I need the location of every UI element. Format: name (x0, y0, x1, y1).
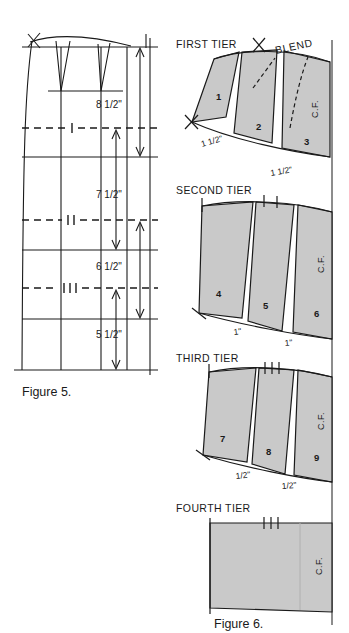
tier3-spread-label-1: 1/2" (235, 469, 251, 481)
tier3-piece-number-9: 9 (314, 452, 319, 463)
tier2-piece-6 (293, 205, 332, 339)
tier3-center-front-label: C.F. (316, 412, 326, 430)
tier-label-first: FIRST TIER (176, 38, 237, 50)
dart-2 (98, 43, 110, 91)
figure-6-caption: Figure 6. (214, 617, 263, 631)
tier4-center-front-label: C.F. (314, 557, 324, 575)
tier-first: FIRST TIER BLEND (176, 36, 330, 178)
tier-fourth: FOURTH TIER C.F. (176, 502, 332, 614)
tier1-piece-number-2: 2 (256, 121, 261, 132)
tier2-spread-label-2: 1" (284, 337, 293, 348)
tier-second: SECOND TIER 4 5 6 C.F. 1" 1" (176, 184, 332, 348)
tier1-spread-label-2: 1 1/2" (270, 164, 293, 178)
waist-tick-left (28, 34, 40, 48)
tier2-spread-label-1: 1" (233, 326, 242, 337)
tier3-piece-7 (203, 368, 256, 462)
figure-5: 8 1/2" 7 1/2" 6 1/2" 5 1/2" Figure 5. (0, 0, 175, 633)
tier1-piece-1 (192, 52, 239, 122)
dimension-label-6-5: 6 1/2" (96, 261, 122, 272)
dimension-label-8-5: 8 1/2" (96, 99, 122, 110)
skirt-left-edge (22, 41, 32, 370)
tier2-center-front-label: C.F. (316, 255, 326, 273)
dimension-label-5-5: 5 1/2" (96, 329, 122, 340)
tier3-piece-8 (252, 368, 294, 474)
diagram-canvas: 8 1/2" 7 1/2" 6 1/2" 5 1/2" Figure 5. FI… (0, 0, 349, 633)
tier-label-third: THIRD TIER (176, 352, 239, 364)
tier-label-second: SECOND TIER (176, 184, 252, 196)
tier-third: THIRD TIER 7 8 9 C.F. 1/2" 1/2" (176, 352, 332, 491)
dart-1 (56, 41, 70, 91)
tier1-center-front-label: C.F. (310, 100, 320, 118)
tier2-piece-number-4: 4 (216, 288, 222, 299)
tier2-piece-5 (248, 202, 294, 331)
tier2-piece-4 (199, 202, 253, 318)
figure-5-caption: Figure 5. (22, 385, 71, 399)
dimension-label-7-5: 7 1/2" (96, 189, 122, 200)
tier1-piece-number-1: 1 (216, 91, 222, 102)
tier2-piece-number-6: 6 (314, 308, 319, 319)
tier3-piece-number-7: 7 (220, 433, 225, 444)
tier1-spread-label-1: 1 1/2" (200, 133, 224, 149)
tier3-spread-label-2: 1/2" (281, 480, 297, 491)
tier-label-fourth: FOURTH TIER (176, 502, 251, 514)
waist-curve (30, 37, 131, 46)
tier2-piece-number-5: 5 (263, 300, 269, 311)
tier3-piece-9 (294, 370, 332, 482)
tier3-piece-number-8: 8 (266, 446, 271, 457)
figure-6: FIRST TIER BLEND (172, 0, 349, 633)
tier1-piece-number-3: 3 (304, 136, 309, 147)
